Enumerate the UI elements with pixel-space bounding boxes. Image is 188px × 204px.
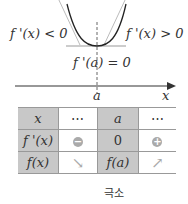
right-derivative-label: f '(x) > 0: [126, 26, 183, 41]
table-cell: −: [59, 130, 98, 152]
row-header: f(x): [18, 152, 59, 174]
minus-sign-icon: −: [73, 137, 83, 147]
right-tangent: [104, 0, 126, 45]
table-cell: a: [97, 108, 138, 130]
plus-sign-icon: +: [152, 137, 162, 147]
row-header: x: [18, 108, 59, 130]
table-cell: ⋯: [138, 108, 176, 130]
decreasing-arrow-icon: ↘: [59, 152, 98, 174]
variation-table: x ⋯ a ⋯ f '(x) − 0 + f(x) ↘ f(a) ↗: [18, 107, 176, 174]
x-axis-label: x: [162, 88, 169, 103]
table-cell: ⋯: [59, 108, 98, 130]
table-row-x: x ⋯ a ⋯: [18, 108, 176, 130]
table-cell: 0: [97, 130, 138, 152]
table-cell: f(a): [97, 152, 138, 174]
row-header: f '(x): [18, 130, 59, 152]
table-row-derivative: f '(x) − 0 +: [18, 130, 176, 152]
axis-point-a-label: a: [93, 88, 101, 103]
increasing-arrow-icon: ↗: [138, 152, 176, 174]
table-cell: +: [138, 130, 176, 152]
local-minimum-caption: 극소: [104, 184, 124, 200]
critical-point-label: f '(a) = 0: [73, 55, 131, 70]
table-row-function: f(x) ↘ f(a) ↗: [18, 152, 176, 174]
left-derivative-label: f '(x) < 0: [10, 26, 67, 41]
